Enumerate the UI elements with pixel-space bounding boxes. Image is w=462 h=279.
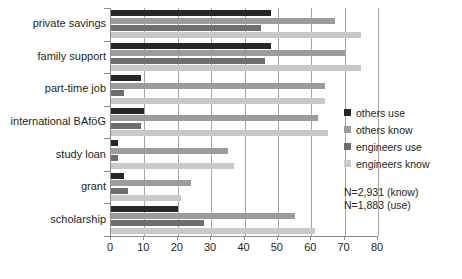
bar (111, 98, 325, 104)
bar-chart: private savingsfamily supportpart-time j… (0, 0, 462, 279)
bar (111, 90, 124, 96)
x-axis-tick-label: 50 (271, 242, 283, 253)
bar (111, 115, 318, 121)
x-axis-tick (310, 236, 311, 240)
legend-label: others use (356, 107, 405, 119)
bar (111, 83, 325, 89)
legend: others useothers knowengineers useengine… (344, 104, 430, 172)
x-axis-tick-label: 40 (237, 242, 249, 253)
x-axis-tick-label: 70 (338, 242, 350, 253)
x-axis-tick-label: 10 (137, 242, 149, 253)
bar-group (111, 138, 378, 171)
x-axis-tick (344, 236, 345, 240)
legend-swatch-icon (344, 109, 351, 116)
bar-group (111, 73, 378, 106)
x-axis-tick-label: 20 (171, 242, 183, 253)
bar (111, 206, 178, 212)
x-axis-tick (110, 236, 111, 240)
bar (111, 32, 361, 38)
bar-group (111, 8, 378, 41)
y-axis-tick (104, 8, 110, 9)
x-axis-tick (244, 236, 245, 240)
annotation-line: N=2,931 (know) (344, 186, 418, 199)
x-axis-tick (177, 236, 178, 240)
bar (111, 220, 204, 226)
y-axis-category-label: scholarship (50, 214, 106, 225)
x-axis-tick (277, 236, 278, 240)
bar (111, 18, 335, 24)
y-axis-tick (104, 171, 110, 172)
legend-label: engineers use (356, 141, 422, 153)
x-axis-tick-label: 80 (371, 242, 383, 253)
y-axis-tick (104, 73, 110, 74)
legend-item: others use (344, 104, 430, 121)
x-axis-tick (143, 236, 144, 240)
y-axis-tick (104, 138, 110, 139)
y-axis-category-label: grant (81, 181, 106, 192)
legend-swatch-icon (344, 143, 351, 150)
bar (111, 50, 345, 56)
bar (111, 155, 118, 161)
bar (111, 228, 315, 234)
y-axis-tick (104, 106, 110, 107)
x-axis-tick (210, 236, 211, 240)
bar (111, 43, 271, 49)
bar (111, 163, 234, 169)
x-axis-tick-label: 30 (204, 242, 216, 253)
y-axis-category-label: part-time job (45, 83, 106, 94)
bar (111, 65, 361, 71)
bar (111, 108, 144, 114)
bar (111, 58, 265, 64)
bar (111, 75, 141, 81)
sample-size-annotations: N=2,931 (know)N=1,883 (use) (344, 186, 418, 212)
bar (111, 148, 228, 154)
bar-group (111, 203, 378, 236)
x-axis-tick-label: 60 (304, 242, 316, 253)
bar-group (111, 41, 378, 74)
y-axis-category-label: private savings (33, 18, 106, 29)
bar (111, 213, 295, 219)
x-axis-tick (377, 236, 378, 240)
legend-item: engineers use (344, 138, 430, 155)
y-axis-tick (104, 41, 110, 42)
annotation-line: N=1,883 (use) (344, 199, 418, 212)
bar (111, 130, 328, 136)
legend-item: others know (344, 121, 430, 138)
legend-label: others know (356, 124, 413, 136)
bar (111, 173, 124, 179)
x-axis-tick-label: 0 (107, 242, 113, 253)
bar (111, 123, 141, 129)
bar (111, 10, 271, 16)
bar-group (111, 106, 378, 139)
y-axis-category-labels: private savingsfamily supportpart-time j… (0, 0, 106, 236)
y-axis-category-label: study loan (56, 149, 106, 160)
legend-item: engineers know (344, 155, 430, 172)
y-axis-category-label: family support (38, 51, 106, 62)
legend-swatch-icon (344, 126, 351, 133)
plot-area (110, 8, 378, 236)
legend-swatch-icon (344, 160, 351, 167)
bar (111, 25, 261, 31)
bar (111, 180, 191, 186)
bar (111, 188, 128, 194)
bar (111, 195, 181, 201)
bar (111, 140, 118, 146)
y-axis-tick (104, 203, 110, 204)
legend-label: engineers know (356, 158, 430, 170)
y-axis-category-label: international BAföG (11, 116, 106, 127)
bar-group (111, 171, 378, 204)
